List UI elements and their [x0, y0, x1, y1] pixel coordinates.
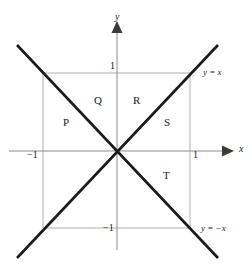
figure-container: y x −1 1 1 −1 P Q R S T y = x y = −x: [0, 0, 252, 268]
x-axis-label: x: [239, 144, 243, 154]
y-tick-label-positive-one: 1: [110, 61, 115, 71]
x-tick-label-positive-one: 1: [193, 150, 198, 160]
region-label-r: R: [133, 95, 140, 106]
x-tick-label-negative-one: −1: [27, 150, 38, 160]
y-axis-label: y: [115, 12, 119, 22]
region-label-q: Q: [94, 95, 102, 106]
y-axis-arrow-icon: [112, 21, 123, 33]
region-label-t: T: [163, 170, 170, 181]
equation-label-y-equals-negative-x: y = −x: [201, 224, 226, 233]
equation-label-y-equals-x: y = x: [203, 68, 222, 77]
y-tick-label-negative-one: −1: [103, 223, 114, 233]
x-axis-arrow-icon: [222, 146, 234, 157]
region-label-p: P: [63, 117, 69, 128]
region-label-s: S: [164, 117, 170, 128]
